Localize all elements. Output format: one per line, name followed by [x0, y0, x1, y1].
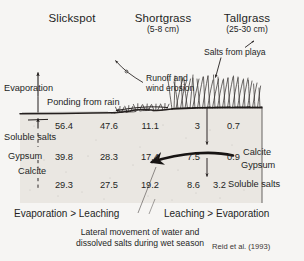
value-r1c2: 47.6	[92, 121, 118, 131]
annotation-runoff-line2: wind erosion	[146, 84, 194, 93]
footer-lateral-line1: Lateral movement of water and	[40, 228, 240, 237]
column-header-tallgrass: Tallgrass	[206, 12, 288, 24]
footer-lateral-line2: dissolved salts during wet season	[40, 239, 240, 248]
value-r2c4: 7.5	[174, 152, 200, 162]
left-label-gypsum: Gypsum	[8, 152, 42, 162]
value-r2c3: 17.4	[133, 152, 159, 162]
value-r1c3: 11.1	[133, 121, 159, 131]
footer-right-regime: Leaching > Evaporation	[164, 209, 269, 220]
value-r1c5: 0.7	[214, 121, 240, 131]
value-r3c4: 8.6	[174, 180, 200, 190]
value-r3c5: 3.2	[200, 180, 226, 190]
column-header-slickspot: Slickspot	[26, 12, 118, 24]
value-r2c1: 39.8	[47, 152, 73, 162]
citation: Reid et al. (1993)	[212, 243, 270, 251]
value-r2c5: 0.9	[214, 152, 240, 162]
right-label-calcite: Calcite	[243, 148, 271, 158]
value-r3c1: 29.3	[47, 180, 73, 190]
left-label-calcite: Calcite	[18, 167, 46, 177]
value-r3c3: 19.2	[133, 180, 159, 190]
footer-left-regime: Evaporation > Leaching	[14, 209, 119, 220]
value-r3c2: 27.5	[92, 180, 118, 190]
column-header-tallgrass-depth: (25-30 cm)	[206, 25, 288, 34]
soil-salinity-diagram: Slickspot Shortgrass (5-8 cm) Tallgrass …	[0, 0, 304, 261]
column-header-shortgrass: Shortgrass	[122, 12, 204, 24]
annotation-runoff-line1: Runoff and	[146, 74, 188, 83]
left-label-soluble-salts: Soluble salts	[4, 133, 56, 143]
annotation-ponding-from-rain: Ponding from rain	[47, 98, 120, 108]
annotation-evaporation: Evaporation	[4, 84, 53, 94]
column-header-shortgrass-depth: (5-8 cm)	[122, 25, 204, 34]
value-r2c2: 28.3	[92, 152, 118, 162]
value-r1c4: 3	[174, 121, 200, 131]
value-r1c1: 56.4	[47, 121, 73, 131]
right-label-soluble-salts: Soluble salts	[228, 180, 280, 190]
annotation-salts-from-playa: Salts from playa	[204, 48, 266, 57]
right-label-gypsum: Gypsum	[241, 161, 275, 171]
